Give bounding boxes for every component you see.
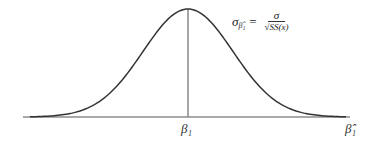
- fraction: σ √SS(x): [265, 10, 289, 33]
- axis-label: β̂₁: [345, 121, 356, 137]
- standard-error-formula: σβ̂₁ = σ √SS(x): [232, 10, 288, 33]
- sigma-subscript: β̂₁: [238, 21, 245, 30]
- fraction-denominator: √SS(x): [265, 22, 289, 33]
- center-label: β₁: [181, 121, 192, 137]
- fraction-numerator: σ: [268, 10, 285, 22]
- equals-sign: =: [249, 14, 256, 30]
